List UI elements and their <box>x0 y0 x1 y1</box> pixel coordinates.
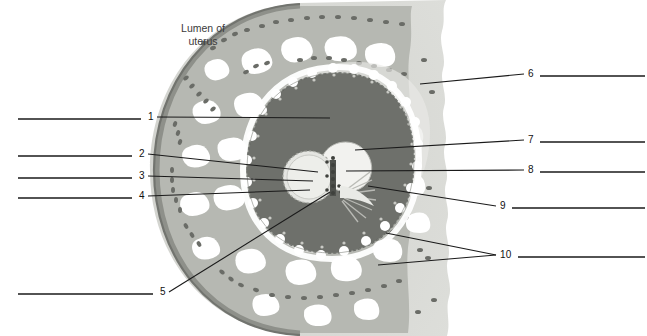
figure-canvas: Lumen of uterus 12345678910 <box>0 0 647 336</box>
label-number-5: 5 <box>160 287 166 297</box>
label-number-1: 1 <box>148 112 154 122</box>
lumen-of-uterus-caption: Lumen of uterus <box>163 22 243 48</box>
label-number-2: 2 <box>139 149 145 159</box>
label-number-9: 9 <box>500 201 506 211</box>
label-number-6: 6 <box>528 69 534 79</box>
uterine-wall-cross-section <box>0 0 647 336</box>
label-number-8: 8 <box>528 165 534 175</box>
label-number-3: 3 <box>139 171 145 181</box>
label-number-7: 7 <box>528 135 534 145</box>
label-number-4: 4 <box>139 191 145 201</box>
label-number-10: 10 <box>500 250 512 260</box>
